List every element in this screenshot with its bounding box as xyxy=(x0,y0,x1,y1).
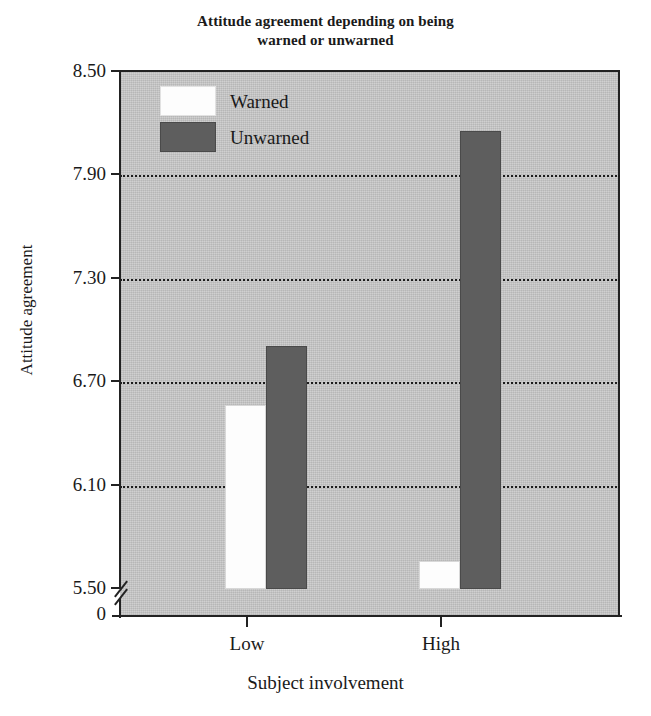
y-tick-8.50 xyxy=(111,70,120,72)
y-axis-title: Attitude agreement xyxy=(17,220,37,400)
legend-item-unwarned[interactable]: Unwarned xyxy=(160,120,309,154)
y-tick-7.30 xyxy=(111,277,120,279)
y-label-7.90: 7.90 xyxy=(36,164,106,183)
bar-high-warned[interactable] xyxy=(419,561,460,589)
y-tick-7.90 xyxy=(111,173,120,175)
y-label-0: 0 xyxy=(36,604,106,623)
x-tick-low xyxy=(246,617,248,627)
chart-title-line-1: Attitude agreement depending on being xyxy=(0,12,651,31)
chart-title-line-2: warned or unwarned xyxy=(0,31,651,50)
y-tick-6.70 xyxy=(111,380,120,382)
y-tick-6.10 xyxy=(111,484,120,486)
x-axis-title: Subject involvement xyxy=(0,672,651,694)
gridline-6.70 xyxy=(120,382,620,384)
x-tick-high xyxy=(440,617,442,627)
legend-label-unwarned: Unwarned xyxy=(230,128,309,147)
y-tick-5.50 xyxy=(111,587,120,589)
legend-swatch-unwarned xyxy=(160,122,216,152)
legend-item-warned[interactable]: Warned xyxy=(160,84,309,118)
y-label-5.50: 5.50 xyxy=(36,578,106,597)
gridline-7.30 xyxy=(120,279,620,281)
plot-area: Warned Unwarned xyxy=(120,70,620,616)
legend: Warned Unwarned xyxy=(160,84,309,156)
y-axis-line xyxy=(119,70,121,589)
gridline-6.10 xyxy=(120,486,620,488)
bar-low-warned[interactable] xyxy=(225,405,266,589)
x-axis-line xyxy=(112,615,622,617)
x-label-high: High xyxy=(381,633,501,654)
gridline-7.90 xyxy=(120,175,620,177)
y-axis-break-symbol xyxy=(110,583,132,603)
x-label-low: Low xyxy=(187,633,307,654)
y-label-6.70: 6.70 xyxy=(36,371,106,390)
bar-high-unwarned[interactable] xyxy=(460,131,501,589)
chart-title: Attitude agreement depending on being wa… xyxy=(0,12,651,50)
bar-low-unwarned[interactable] xyxy=(266,346,307,589)
legend-swatch-warned xyxy=(160,86,216,116)
y-label-7.30: 7.30 xyxy=(36,268,106,287)
y-label-8.50: 8.50 xyxy=(36,61,106,80)
legend-label-warned: Warned xyxy=(230,92,289,111)
axis-break-slash-2 xyxy=(114,589,128,606)
y-label-6.10: 6.10 xyxy=(36,475,106,494)
